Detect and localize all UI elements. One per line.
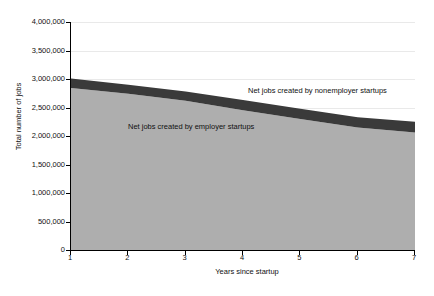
y-axis: 4,000,000 3,500,000 3,000,000 2,500,000 … xyxy=(0,0,70,296)
x-tick-label: 2 xyxy=(117,254,137,262)
plot-clip xyxy=(71,22,415,250)
area-chart: 4,000,000 3,500,000 3,000,000 2,500,000 … xyxy=(0,0,434,296)
y-tick-label: 2,000,000 xyxy=(1,132,65,140)
y-tick-label: 2,500,000 xyxy=(1,104,65,112)
y-tick-label: 3,500,000 xyxy=(1,47,65,55)
x-tick-label: 3 xyxy=(175,254,195,262)
annotation-employer-startups: Net jobs created by employer startups xyxy=(128,122,254,131)
x-tick-label: 1 xyxy=(60,254,80,262)
x-tick-label: 4 xyxy=(232,254,252,262)
x-axis-title: Years since startup xyxy=(0,267,434,276)
area-employer-startups xyxy=(71,88,415,250)
y-tick-label: 0 xyxy=(1,246,65,254)
y-tick-label: 4,000,000 xyxy=(1,18,65,26)
y-axis-title: Total number of jobs xyxy=(14,47,23,187)
annotation-nonemployer-startups: Net jobs created by nonemployer startups xyxy=(248,86,387,95)
x-tick-label: 5 xyxy=(289,254,309,262)
y-tick-label: 3,000,000 xyxy=(1,75,65,83)
plot-area xyxy=(70,22,415,251)
x-tick-label: 7 xyxy=(404,254,424,262)
x-axis-title-text: Years since startup xyxy=(215,267,279,276)
y-tick-label: 1,500,000 xyxy=(1,161,65,169)
y-tick-label: 500,000 xyxy=(1,218,65,226)
y-tick-label: 1,000,000 xyxy=(1,189,65,197)
stacked-area-series xyxy=(71,22,415,250)
x-tick-label: 6 xyxy=(347,254,367,262)
